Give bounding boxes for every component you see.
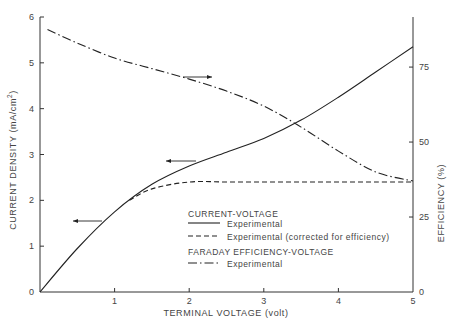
y-right-tick-label: 50 [419,137,429,147]
arrowhead-icon [166,159,171,163]
y-tick-label: 1 [29,241,34,251]
y-right-tick-label: 0 [419,287,424,297]
x-tick-label: 3 [261,296,266,306]
y-axis-title-end: ) [8,90,18,94]
y-right-axis-title: EFFICIENCY (%) [436,164,446,242]
y-right-tick-label: 75 [419,62,429,72]
legend-group1-title: CURRENT-VOLTAGE [188,209,278,219]
series-line-dash-dot [48,30,414,181]
legend-group2-title: FARADAY EFFICIENCY-VOLTAGE [188,247,334,257]
x-axis-title: TERMINAL VOLTAGE (volt) [163,308,288,318]
legend: CURRENT-VOLTAGE Experimental Experimenta… [188,209,389,269]
series-line-dashed [130,182,414,201]
x-tick-label: 1 [112,296,117,306]
y-tick-label: 0 [29,287,34,297]
y-tick-label: 4 [29,104,34,114]
y-axis-title-main: CURRENT DENSITY (mA/cm [8,98,18,230]
y-right-tick-label: 25 [419,212,429,222]
y-axis-title: CURRENT DENSITY (mA/cm2) [6,90,18,230]
legend-item-dashed: Experimental (corrected for efficiency) [227,232,389,242]
arrowhead-icon [73,219,78,223]
y-tick-label: 3 [29,150,34,160]
chart: 1234501234560255075 TERMINAL VOLTAGE (vo… [0,0,454,332]
legend-item-solid: Experimental [227,219,283,229]
arrowhead-icon [207,75,212,79]
legend-item-dashdot: Experimental [227,259,283,269]
y-tick-label: 2 [29,195,34,205]
x-tick-label: 2 [187,296,192,306]
x-tick-label: 5 [410,296,415,306]
y-tick-label: 5 [29,58,34,68]
y-tick-label: 6 [29,12,34,22]
x-tick-label: 4 [336,296,341,306]
annotation-arrows [73,75,212,223]
